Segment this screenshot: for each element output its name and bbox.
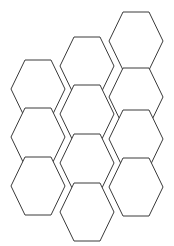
hexagon-grid-svg — [0, 0, 174, 246]
hexagon-grid-canvas — [0, 0, 174, 246]
